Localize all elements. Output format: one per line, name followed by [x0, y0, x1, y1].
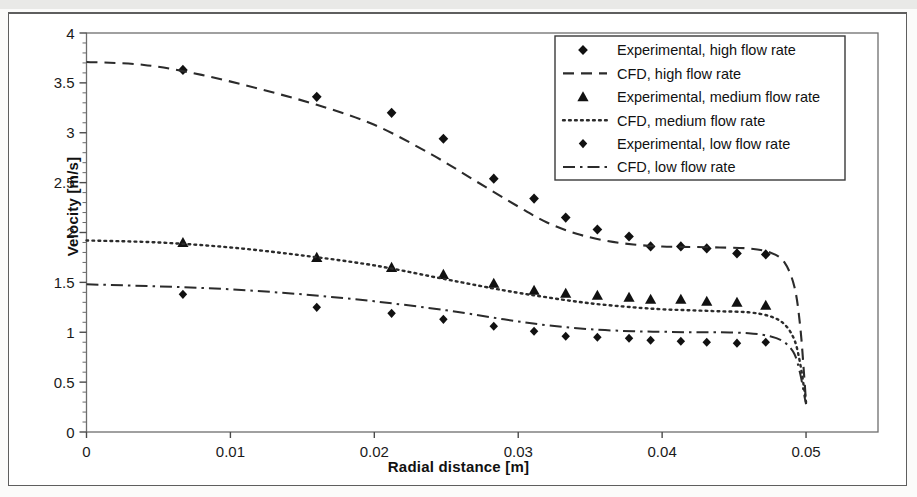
y-tick-label: 0	[66, 424, 74, 441]
data-point-experimental-low-flow-rate	[530, 327, 538, 336]
data-point-experimental-low-flow-rate	[561, 332, 569, 341]
chart-plot-area: 00.010.020.030.040.0500.511.522.533.54Ex…	[0, 0, 917, 497]
data-point-experimental-low-flow-rate	[179, 290, 187, 299]
data-point-experimental-medium-flow-rate	[592, 290, 603, 300]
data-point-experimental-medium-flow-rate	[731, 297, 742, 307]
data-point-experimental-high-flow-rate	[312, 92, 322, 102]
series-line-cfd-medium-flow-rate	[87, 240, 807, 402]
legend-label-2: Experimental, medium flow rate	[617, 89, 820, 105]
chart-svg: 00.010.020.030.040.0500.511.522.533.54Ex…	[0, 0, 917, 497]
legend-label-1: CFD, high flow rate	[617, 66, 741, 82]
data-point-experimental-medium-flow-rate	[623, 292, 634, 302]
data-point-experimental-medium-flow-rate	[560, 288, 571, 298]
data-point-experimental-high-flow-rate	[624, 231, 634, 241]
y-tick-label: 3.5	[54, 74, 75, 91]
data-point-experimental-high-flow-rate	[702, 243, 712, 253]
data-point-experimental-low-flow-rate	[733, 339, 741, 348]
data-point-experimental-high-flow-rate	[387, 108, 397, 118]
data-point-experimental-medium-flow-rate	[386, 262, 397, 272]
data-point-experimental-medium-flow-rate	[701, 296, 712, 306]
data-point-experimental-medium-flow-rate	[528, 285, 539, 295]
data-point-experimental-low-flow-rate	[593, 333, 601, 342]
legend-label-5: CFD, low flow rate	[617, 159, 735, 175]
data-point-experimental-high-flow-rate	[529, 193, 539, 203]
data-point-experimental-high-flow-rate	[439, 134, 449, 144]
data-point-experimental-low-flow-rate	[762, 338, 770, 347]
data-point-experimental-high-flow-rate	[732, 248, 742, 258]
data-point-experimental-low-flow-rate	[677, 337, 685, 346]
data-point-experimental-high-flow-rate	[761, 249, 771, 259]
data-point-experimental-high-flow-rate	[593, 224, 603, 234]
data-point-experimental-low-flow-rate	[646, 336, 654, 345]
y-tick-label: 0.5	[54, 374, 75, 391]
y-axis-label: Velocity [m/s]	[64, 127, 81, 287]
legend-label-3: CFD, medium flow rate	[617, 113, 765, 129]
x-axis-label: Radial distance [m]	[0, 458, 917, 475]
y-tick-label: 4	[66, 25, 74, 42]
data-point-experimental-high-flow-rate	[489, 174, 499, 184]
data-point-experimental-medium-flow-rate	[645, 294, 656, 304]
y-tick-label: 1	[66, 324, 74, 341]
legend-label-4: Experimental, low flow rate	[617, 136, 790, 152]
data-point-experimental-low-flow-rate	[387, 309, 395, 318]
data-point-experimental-medium-flow-rate	[675, 294, 686, 304]
data-point-experimental-low-flow-rate	[490, 322, 498, 331]
data-point-experimental-medium-flow-rate	[177, 237, 188, 247]
legend-label-0: Experimental, high flow rate	[617, 42, 796, 58]
data-point-experimental-low-flow-rate	[703, 338, 711, 347]
data-point-experimental-medium-flow-rate	[488, 278, 499, 288]
data-point-experimental-low-flow-rate	[313, 303, 321, 312]
data-point-experimental-high-flow-rate	[561, 212, 571, 222]
figure-container: 00.010.020.030.040.0500.511.522.533.54Ex…	[0, 0, 917, 497]
data-point-experimental-low-flow-rate	[439, 315, 447, 324]
data-point-experimental-medium-flow-rate	[760, 300, 771, 310]
series-line-cfd-low-flow-rate	[87, 284, 807, 404]
data-point-experimental-low-flow-rate	[625, 334, 633, 343]
